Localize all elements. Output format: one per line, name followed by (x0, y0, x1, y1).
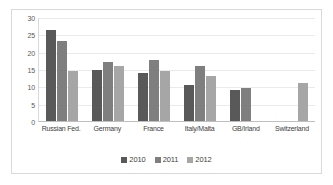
x-axis-label: GB/Irland (223, 124, 269, 150)
bar (241, 88, 251, 121)
legend-item[interactable]: 2012 (187, 156, 211, 164)
chart-container: 302520151050 Russian Fed.GermanyFranceIt… (11, 9, 322, 174)
chart-legend: 201020112012 (12, 153, 321, 167)
bar-group (85, 18, 131, 121)
bar (184, 85, 194, 121)
legend-item[interactable]: 2010 (121, 156, 145, 164)
bar (298, 83, 308, 121)
bar-group (131, 18, 177, 121)
bar (195, 66, 205, 121)
bar-group (223, 18, 269, 121)
y-axis-tick: 15 (16, 67, 35, 74)
legend-swatch-icon (121, 157, 127, 163)
y-axis-tick: 10 (16, 84, 35, 91)
legend-swatch-icon (155, 157, 161, 163)
x-axis-label: Switzerland (269, 124, 315, 150)
bar (68, 71, 78, 121)
bar (114, 66, 124, 121)
bar (149, 60, 159, 121)
y-axis-tick: 30 (16, 15, 35, 22)
chart-plot-wrapper: 302520151050 Russian Fed.GermanyFranceIt… (12, 10, 321, 173)
legend-item[interactable]: 2011 (155, 156, 179, 164)
y-axis: 302520151050 (16, 18, 35, 122)
y-axis-tick: 25 (16, 32, 35, 39)
bar (92, 70, 102, 121)
legend-swatch-icon (187, 157, 193, 163)
x-axis-label: Russian Fed. (38, 124, 84, 150)
bar (57, 41, 67, 121)
y-axis-tick: 0 (16, 119, 35, 126)
plot-area (38, 18, 315, 122)
legend-label: 2011 (163, 156, 179, 164)
x-axis-label: France (130, 124, 176, 150)
bar (103, 62, 113, 121)
bars-layer (39, 18, 315, 121)
x-axis-labels: Russian Fed.GermanyFranceItaly/MaltaGB/I… (38, 124, 315, 150)
y-axis-tick: 20 (16, 49, 35, 56)
bar-group (269, 18, 315, 121)
bar (230, 90, 240, 121)
bar (206, 76, 216, 121)
x-axis-label: Italy/Malta (177, 124, 223, 150)
bar (160, 71, 170, 121)
bar (46, 30, 56, 121)
bar (138, 73, 148, 121)
legend-label: 2010 (129, 156, 145, 164)
y-axis-tick: 5 (16, 101, 35, 108)
x-axis-label: Germany (84, 124, 130, 150)
bar-group (177, 18, 223, 121)
bar-group (39, 18, 85, 121)
legend-label: 2012 (195, 156, 211, 164)
